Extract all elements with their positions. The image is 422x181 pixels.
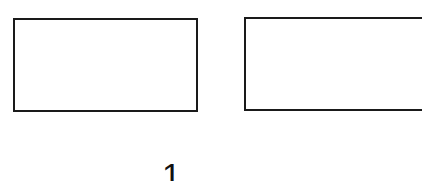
caption-rest: ...	[183, 156, 229, 181]
caption-number: 1	[162, 156, 183, 181]
caption-text: 1 ...	[162, 158, 229, 181]
empty-box-left	[13, 18, 198, 112]
empty-box-right	[244, 17, 422, 111]
